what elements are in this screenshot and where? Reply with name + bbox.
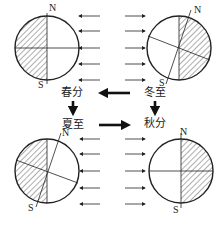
label-autumn-equinox: 秋分: [144, 118, 166, 130]
label-winter-solstice: 冬至: [144, 87, 166, 99]
sunlight-arrows-summer: [80, 139, 100, 204]
north-label-summer: N: [62, 128, 69, 138]
north-label-winter: N: [194, 5, 201, 15]
south-label-spring: S: [38, 80, 44, 90]
sunlight-arrows-winter: [125, 16, 145, 80]
north-label-autumn: N: [180, 127, 187, 137]
sunlight-arrows-spring: [79, 16, 100, 80]
flow-arrows: [73, 93, 155, 125]
south-label-winter: S: [159, 78, 165, 88]
seasons-diagram: [0, 0, 224, 228]
south-label-summer: S: [28, 203, 34, 213]
globe-summer-solstice: [15, 133, 79, 207]
sunlight-arrows-autumn: [125, 139, 145, 204]
globe-autumn-equinox: [149, 133, 214, 208]
globe-spring-equinox: [15, 13, 79, 84]
south-label-autumn: S: [173, 205, 179, 215]
north-label-spring: N: [49, 3, 56, 13]
globe-winter-solstice: [147, 10, 212, 84]
label-spring-equinox: 春分: [61, 87, 83, 99]
